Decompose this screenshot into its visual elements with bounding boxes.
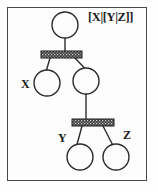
edge-cons2-to-y bbox=[77, 126, 82, 145]
node-x bbox=[34, 70, 60, 96]
expression-label: [X|[Y|Z]] bbox=[88, 11, 133, 24]
node-label-z: Z bbox=[123, 129, 131, 141]
figure-root: [X|[Y|Z]] X Y Z bbox=[0, 0, 158, 192]
cons-cell-tree-diagram bbox=[0, 0, 158, 192]
node-root bbox=[52, 12, 78, 38]
edge-cons1-to-x bbox=[47, 58, 51, 70]
node-z bbox=[103, 144, 129, 170]
cons-cell-bar-2 bbox=[72, 119, 114, 126]
node-y bbox=[67, 144, 93, 170]
node-label-y: Y bbox=[58, 132, 67, 144]
cons-cell-bar-1 bbox=[41, 51, 82, 58]
node-tail bbox=[73, 68, 99, 94]
node-group bbox=[34, 12, 129, 170]
edge-cons2-to-z bbox=[103, 126, 113, 145]
edge-cons1-to-tail bbox=[75, 58, 85, 69]
node-label-x: X bbox=[21, 78, 30, 90]
